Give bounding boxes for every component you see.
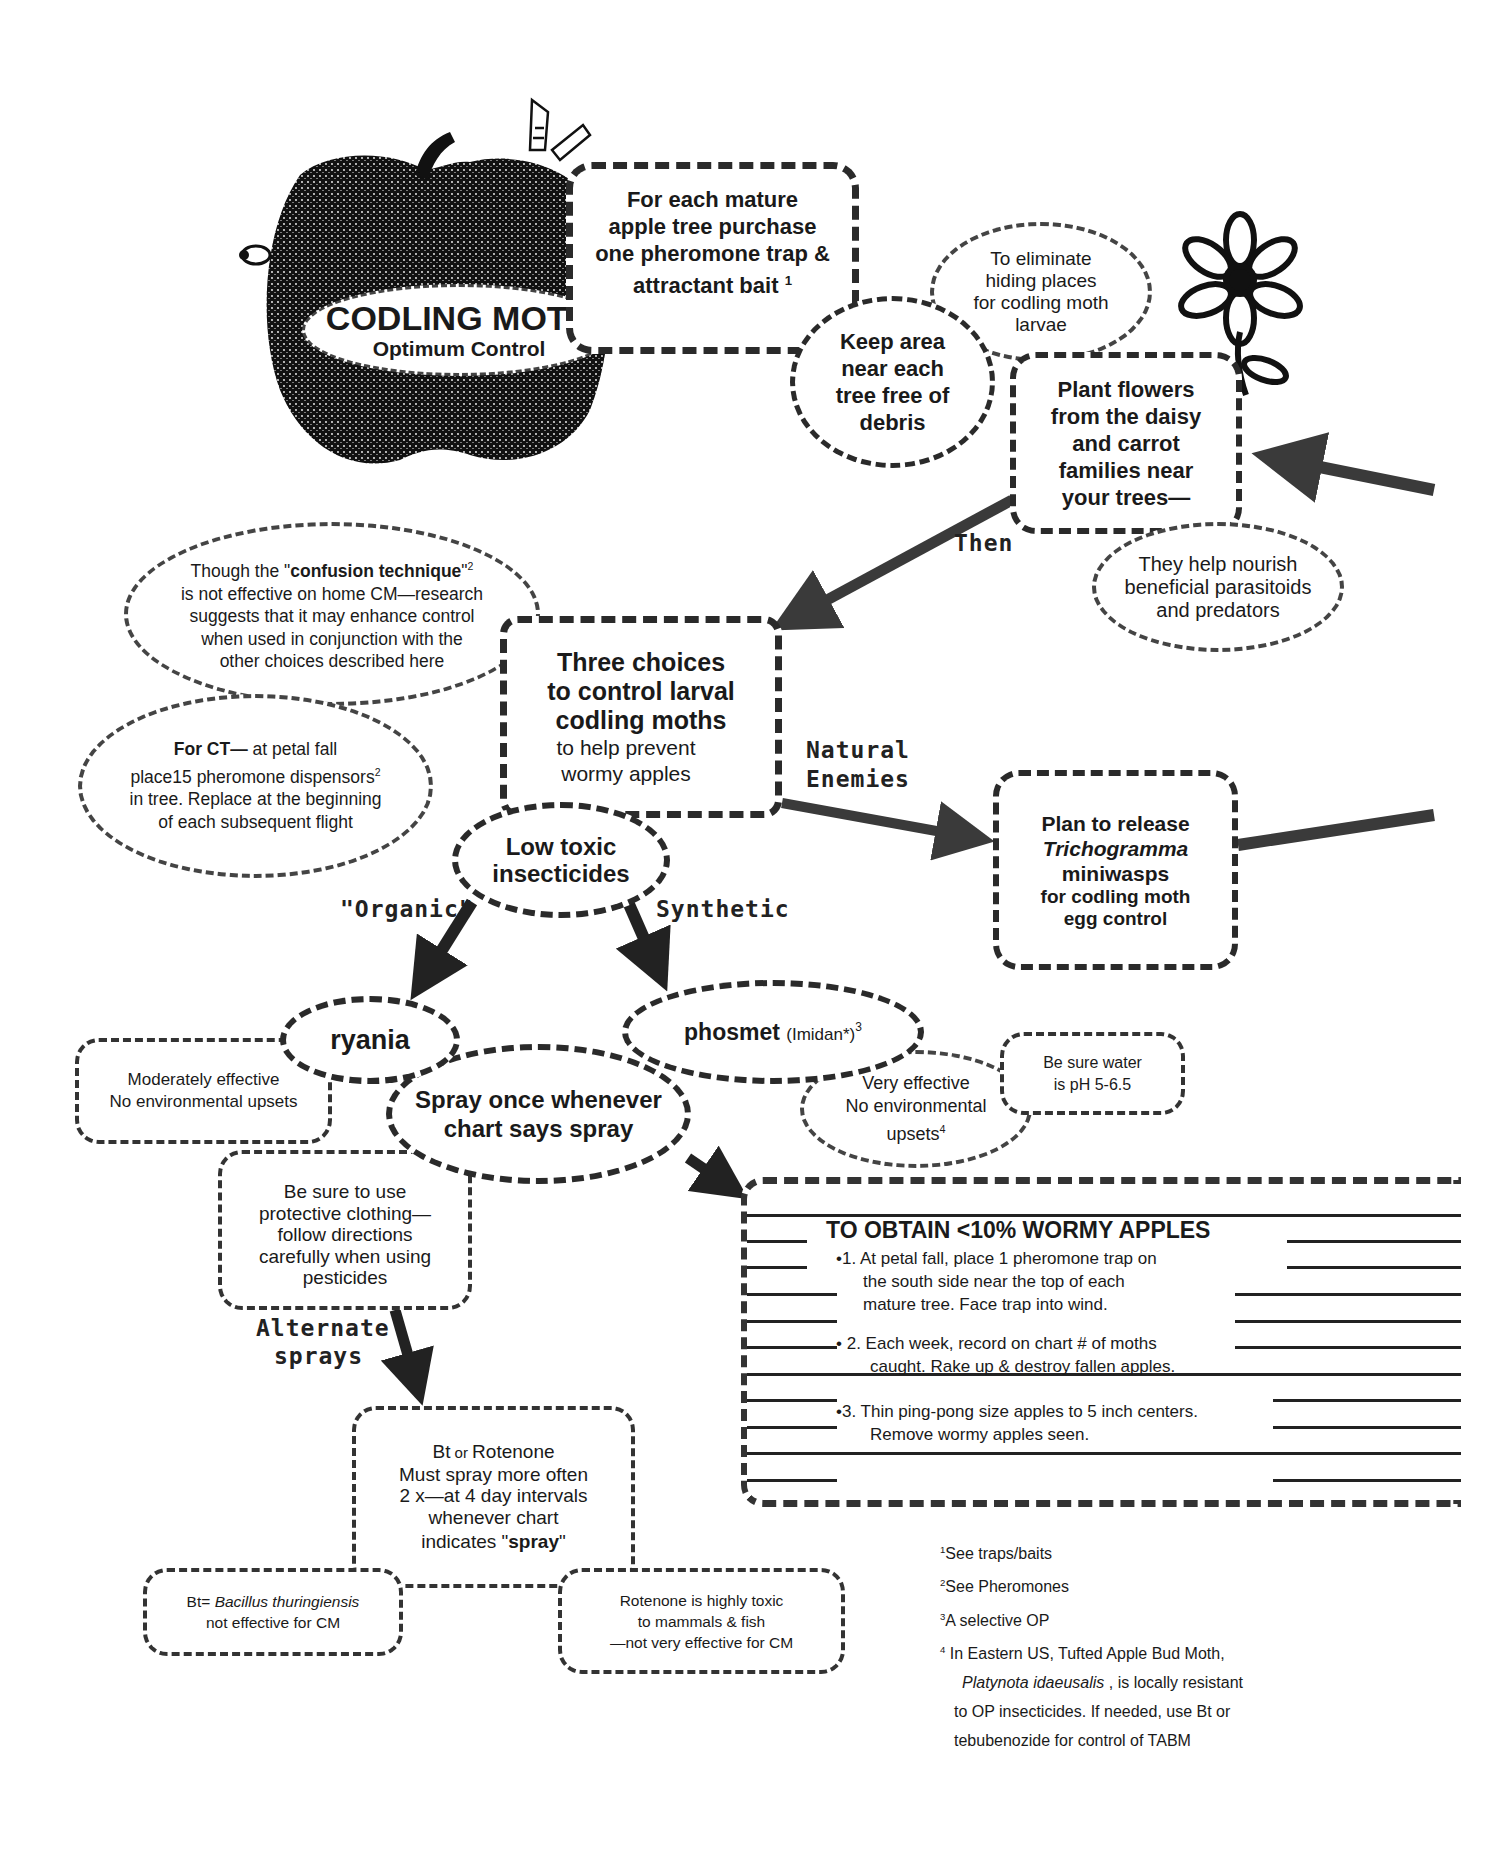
confusion-technique-oval: Though the "confusion technique"2 is not…	[124, 522, 540, 706]
nourish-oval: They help nourish beneficial parasitoids…	[1092, 522, 1344, 652]
goal-content: TO OBTAIN <10% WORMY APPLES •1. At petal…	[741, 1177, 1461, 1507]
phosmet-oval: phosmet (Imidan*)3	[622, 980, 924, 1084]
moth-icon	[530, 100, 590, 160]
natural-enemies-label: Natural Enemies	[806, 736, 910, 794]
footnote-1: 1See traps/baits	[940, 1535, 1243, 1568]
bt-definition-box: Bt= Bacillus thuringiensis not effective…	[143, 1568, 403, 1656]
footnote-2: 2See Pheromones	[940, 1568, 1243, 1601]
for-ct-oval: For CT— at petal fall place15 pheromone …	[78, 694, 433, 878]
footnotes: 1See traps/baits 2See Pheromones 3A sele…	[940, 1535, 1243, 1755]
goal-step-2: • 2. Each week, record on chart # of mot…	[836, 1332, 1175, 1378]
trichogramma-box: Plan to release Trichogramma miniwasps f…	[993, 770, 1238, 970]
goal-step-3: •3. Thin ping-pong size apples to 5 inch…	[836, 1400, 1198, 1446]
synthetic-label: Synthetic	[656, 896, 790, 922]
footnote-4: 4 In Eastern US, Tufted Apple Bud Moth,	[940, 1635, 1243, 1668]
rotenone-note-box: Rotenone is highly toxic to mammals & fi…	[558, 1568, 845, 1674]
organic-label: "Organic"	[340, 896, 474, 922]
ryania-oval: ryania	[280, 996, 460, 1084]
page-title: CODLING MOTH	[326, 299, 592, 337]
goal-step-1: •1. At petal fall, place 1 pheromone tra…	[836, 1247, 1157, 1316]
low-toxic-oval: Low toxic insecticides	[452, 802, 670, 918]
water-ph-box: Be sure water is pH 5-6.5	[1000, 1032, 1185, 1115]
arrow-alternate	[395, 1310, 418, 1390]
three-choices-box: Three choices to control larval codling …	[500, 616, 782, 818]
bt-rotenone-box: Bt or Rotenone Must spray more often 2 x…	[352, 1406, 635, 1588]
protective-clothing-box: Be sure to use protective clothing— foll…	[218, 1150, 472, 1310]
alternate-sprays-label: Alternate sprays	[256, 1314, 381, 1370]
arrow-then	[790, 500, 1012, 620]
arrow-natural-enemies	[782, 803, 975, 838]
arrow-spray-to-goal	[688, 1158, 735, 1190]
keep-area-circle: Keep area near each tree free of debris	[790, 296, 995, 468]
line-to-right-edge	[1238, 815, 1434, 845]
goal-heading: TO OBTAIN <10% WORMY APPLES	[826, 1217, 1210, 1244]
footnote-3: 3A selective OP	[940, 1602, 1243, 1635]
then-label: Then	[954, 530, 1013, 556]
plant-flowers-box: Plant flowers from the daisy and carrot …	[1010, 352, 1242, 534]
arrow-from-right-to-flowers	[1275, 458, 1434, 490]
page-subtitle: Optimum Control	[373, 337, 546, 361]
